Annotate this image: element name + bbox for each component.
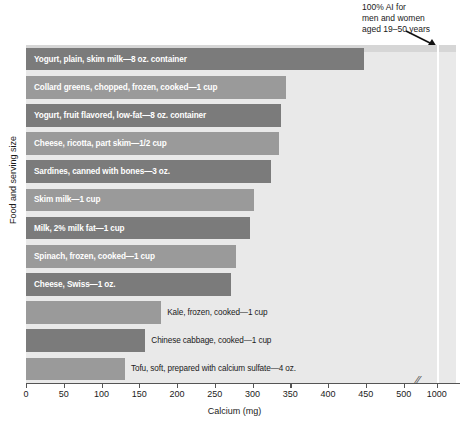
x-tick-100: [102, 383, 103, 388]
x-axis-label: Calcium (mg): [0, 406, 469, 416]
bar-label-9: Kale, frozen, cooked—1 cup: [161, 308, 267, 317]
bar-label-4: Sardines, canned with bones—3 oz.: [26, 167, 170, 176]
bar-1[interactable]: Collard greens, chopped, frozen, cooked—…: [26, 76, 286, 99]
x-tick-label-0: 0: [23, 389, 28, 399]
chart-canvas: 100% AI for men and women aged 19–50 yea…: [0, 0, 469, 428]
bar-label-5: Skim milk—1 cup: [26, 195, 100, 204]
bar-label-7: Spinach, frozen, cooked—1 cup: [26, 252, 155, 261]
x-tick-label-250: 250: [207, 389, 222, 399]
x-tick-label-400: 400: [321, 389, 336, 399]
x-tick-300: [253, 383, 254, 388]
x-tick-label-450: 450: [358, 389, 373, 399]
bar-label-11: Tofu, soft, prepared with calcium sulfat…: [125, 364, 296, 373]
bar-3[interactable]: Cheese, ricotta, part skim—1/2 cup: [26, 132, 279, 155]
x-tick-label-50: 50: [59, 389, 69, 399]
bar-label-2: Yogurt, fruit flavored, low-fat—8 oz. co…: [26, 111, 206, 120]
x-tick-label-500: 500: [396, 389, 411, 399]
x-tick-1000: [437, 383, 438, 388]
x-tick-150: [139, 383, 140, 388]
bar-label-0: Yogurt, plain, skim milk—8 oz. container: [26, 55, 187, 64]
bar-label-10: Chinese cabbage, cooked—1 cup: [145, 336, 271, 345]
x-tick-350: [290, 383, 291, 388]
reference-line-1000: [437, 45, 439, 383]
x-tick-label-150: 150: [132, 389, 147, 399]
bar-10[interactable]: Chinese cabbage, cooked—1 cup: [26, 329, 145, 352]
bar-4[interactable]: Sardines, canned with bones—3 oz.: [26, 160, 271, 183]
x-tick-400: [328, 383, 329, 388]
y-axis-label: Food and serving size: [8, 115, 18, 245]
x-tick-label-1000: 1000: [427, 389, 447, 399]
x-tick-200: [177, 383, 178, 388]
x-axis-line: [26, 383, 460, 384]
x-tick-label-300: 300: [245, 389, 260, 399]
bar-5[interactable]: Skim milk—1 cup: [26, 189, 254, 212]
x-tick-label-200: 200: [170, 389, 185, 399]
bar-8[interactable]: Cheese, Swiss—1 oz.: [26, 273, 231, 296]
bar-label-6: Milk, 2% milk fat—1 cup: [26, 224, 125, 233]
x-tick-50: [64, 383, 65, 388]
bar-label-1: Collard greens, chopped, frozen, cooked—…: [26, 83, 217, 92]
bar-6[interactable]: Milk, 2% milk fat—1 cup: [26, 217, 250, 240]
x-tick-label-350: 350: [283, 389, 298, 399]
bar-label-3: Cheese, ricotta, part skim—1/2 cup: [26, 139, 167, 148]
bar-11[interactable]: Tofu, soft, prepared with calcium sulfat…: [26, 358, 125, 381]
bar-9[interactable]: Kale, frozen, cooked—1 cup: [26, 301, 161, 324]
x-tick-250: [215, 383, 216, 388]
bar-2[interactable]: Yogurt, fruit flavored, low-fat—8 oz. co…: [26, 104, 281, 127]
x-tick-label-100: 100: [94, 389, 109, 399]
bar-label-8: Cheese, Swiss—1 oz.: [26, 280, 115, 289]
x-tick-0: [26, 383, 27, 388]
bar-0[interactable]: Yogurt, plain, skim milk—8 oz. container: [26, 48, 364, 71]
x-tick-450: [366, 383, 367, 388]
plot-area: Yogurt, plain, skim milk—8 oz. container…: [26, 45, 456, 383]
x-tick-500: [404, 383, 405, 388]
bar-7[interactable]: Spinach, frozen, cooked—1 cup: [26, 245, 236, 268]
